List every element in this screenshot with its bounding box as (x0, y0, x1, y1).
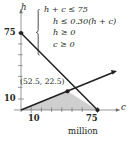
vertex-coordinate-label: (52.5, 22.5) (20, 77, 65, 86)
x-axis-unit-label: million (68, 126, 98, 136)
intercept-point-h75 (19, 31, 23, 35)
y-tick-label-10: 10 (4, 93, 16, 103)
constraint-3: h ≥ 0 (44, 27, 132, 39)
y-axis-label: h (21, 2, 26, 12)
x-tick-label-75: 75 (86, 113, 98, 123)
ratio-ray-arrowhead (111, 70, 117, 75)
constraint-4: c ≥ 0 (44, 39, 132, 51)
x-tick-label-10: 10 (28, 113, 40, 123)
x-axis-label: c (121, 102, 126, 112)
x-axis-arrowhead (116, 108, 121, 112)
system-of-inequalities: h + c ≤ 75 h ≤ 0.30(h + c) h ≥ 0 c ≥ 0 (44, 4, 132, 50)
intercept-point-c75 (95, 108, 99, 112)
vertex-point-intersection (65, 89, 69, 93)
constraint-1: h + c ≤ 75 (44, 4, 132, 16)
y-tick-label-75: 75 (4, 27, 16, 37)
constraint-2: h ≤ 0.30(h + c) (44, 16, 132, 28)
